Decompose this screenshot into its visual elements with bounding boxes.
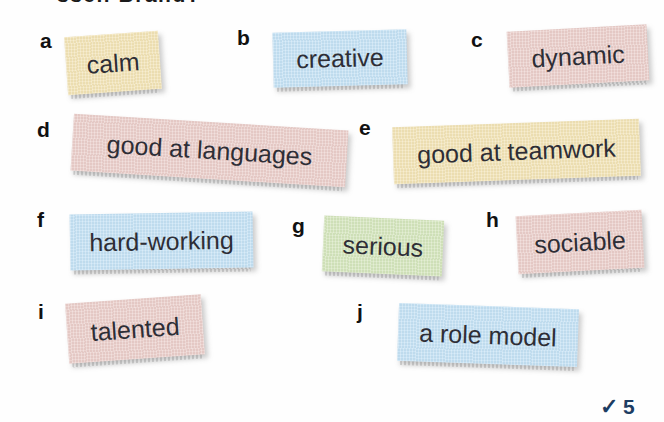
item-letter-j: j [357,301,363,322]
clipped-heading-text: ssell Brand? [57,0,287,6]
item-letter-f: f [37,209,44,230]
item-letter-g: g [292,215,305,236]
item-letter-c: c [471,29,483,50]
score-value: 5 [623,395,635,419]
word-tag-good-at-languages[interactable]: good at languages [71,114,349,188]
word-tag-label: serious [342,232,424,260]
word-tag-a-role-model[interactable]: a role model [397,303,579,367]
word-tag-serious[interactable]: serious [322,215,444,276]
word-tag-calm[interactable]: calm [64,31,162,95]
item-letter-e: e [359,117,371,138]
word-tag-label: a role model [419,320,557,350]
clipped-heading: ssell Brand? [57,0,287,6]
word-tag-label: creative [296,45,384,72]
item-letter-i: i [38,301,44,322]
item-letter-a: a [40,30,52,51]
word-tag-label: good at languages [106,132,313,170]
word-tag-talented[interactable]: talented [65,294,205,363]
word-tag-creative[interactable]: creative [272,29,407,87]
item-letter-h: h [486,209,499,230]
word-tag-label: sociable [534,227,627,257]
word-tag-good-at-teamwork[interactable]: good at teamwork [392,119,641,185]
check-icon: ✓ [600,394,618,420]
word-tag-hard-working[interactable]: hard-working [70,211,254,270]
word-tag-label: calm [86,49,140,78]
word-tag-label: dynamic [531,41,625,71]
word-tag-sociable[interactable]: sociable [516,210,645,275]
item-letter-b: b [237,27,250,48]
word-tag-label: talented [90,313,180,344]
item-letter-d: d [37,119,50,140]
word-tag-label: hard-working [89,227,234,255]
word-tag-dynamic[interactable]: dynamic [507,24,650,87]
score-badge: ✓ 5 [600,394,635,420]
word-tag-label: good at teamwork [417,136,616,168]
worksheet-page: ssell Brand? a calm b creative c dynamic… [0,0,664,422]
